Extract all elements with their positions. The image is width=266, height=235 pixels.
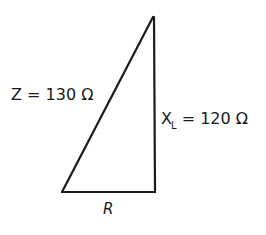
reactance-unit: Ω xyxy=(231,109,248,128)
impedance-equals: = xyxy=(22,85,46,104)
reactance-subscript: L xyxy=(171,120,177,131)
impedance-label: Z = 130 Ω xyxy=(11,87,93,103)
reactance-equals: = xyxy=(177,109,201,128)
hypotenuse-z-line xyxy=(62,17,153,192)
resistance-label: R xyxy=(103,202,113,217)
inductive-reactance-label: XL = 120 Ω xyxy=(161,111,248,127)
impedance-unit: Ω xyxy=(76,85,93,104)
impedance-value: 130 xyxy=(46,85,77,104)
reactance-value: 120 xyxy=(200,109,231,128)
reactance-xl-line xyxy=(154,17,155,192)
impedance-symbol: Z xyxy=(11,85,22,104)
